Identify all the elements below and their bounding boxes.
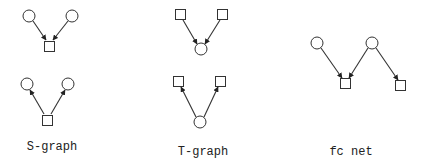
t-graph-arc-arrow-icon: [183, 20, 197, 44]
t-graph-transition-square-icon: [174, 77, 184, 87]
arcs-layer: [30, 20, 398, 117]
s-graph-transition-square-icon: [45, 42, 55, 52]
t-graph-transition-square-icon: [218, 10, 228, 20]
s-graph-transition-square-icon: [43, 116, 53, 126]
t-graph-transition-square-icon: [176, 10, 186, 20]
t-graph-arc-arrow-icon: [204, 87, 218, 117]
s-graph-label: S-graph: [27, 140, 77, 154]
s-graph-place-circle-icon: [21, 78, 33, 90]
t-graph-transition-square-icon: [216, 77, 226, 87]
fc-net-label: fc net: [329, 145, 372, 159]
fc-net-arc-arrow-icon: [376, 48, 398, 80]
fc-net-place-circle-icon: [311, 37, 323, 49]
fc-net-arc-arrow-icon: [321, 48, 342, 78]
petri-net-diagram: S-graph T-graph fc net: [0, 0, 427, 161]
s-graph-arc-arrow-icon: [53, 21, 68, 40]
s-graph-place-circle-icon: [66, 10, 78, 22]
t-graph-place-circle-icon: [195, 43, 207, 55]
fc-net-transition-square-icon: [396, 81, 406, 91]
fc-net-arc-arrow-icon: [349, 48, 368, 78]
s-graph-place-circle-icon: [23, 10, 35, 22]
fc-net-place-circle-icon: [366, 37, 378, 49]
t-graph-arc-arrow-icon: [205, 20, 220, 44]
s-graph-arc-arrow-icon: [33, 21, 46, 40]
s-graph-arc-arrow-icon: [30, 90, 44, 114]
nodes-layer: [21, 10, 406, 129]
s-graph-place-circle-icon: [62, 78, 74, 90]
s-graph-arc-arrow-icon: [51, 90, 65, 114]
t-graph-arc-arrow-icon: [181, 87, 196, 117]
t-graph-place-circle-icon: [194, 116, 206, 128]
t-graph-label: T-graph: [178, 145, 228, 159]
fc-net-transition-square-icon: [341, 79, 351, 89]
labels-layer: S-graph T-graph fc net: [27, 140, 373, 159]
